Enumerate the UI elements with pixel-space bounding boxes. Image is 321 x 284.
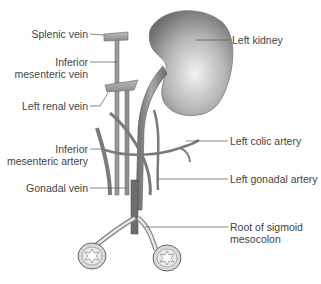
label-left-renal-vein: Left renal vein: [0, 100, 88, 112]
left-gonadal-artery: [154, 110, 158, 190]
kidney: [149, 11, 233, 116]
splenic-vein: [104, 32, 128, 41]
left-renal-vein: [105, 80, 138, 92]
anatomy-diagram: Splenic vein Inferior mesenteric vein Le…: [0, 0, 321, 284]
label-left-gonadal-artery: Left gonadal artery: [230, 173, 318, 185]
sigmoid-mesocolon: [78, 218, 181, 271]
label-left-kidney: Left kidney: [232, 34, 283, 46]
gonadal-vein: [125, 91, 129, 195]
label-gonadal-vein: Gonadal vein: [0, 182, 88, 194]
label-splenic-vein: Splenic vein: [0, 28, 88, 40]
label-inferior-mesenteric-vein: Inferior mesenteric vein: [0, 56, 88, 80]
label-left-colic-artery: Left colic artery: [230, 135, 301, 147]
label-inferior-mesenteric-artery: Inferior mesenteric artery: [0, 143, 88, 167]
label-root-of-sigmoid-mesocolon: Root of sigmoid mesocolon: [230, 221, 303, 245]
